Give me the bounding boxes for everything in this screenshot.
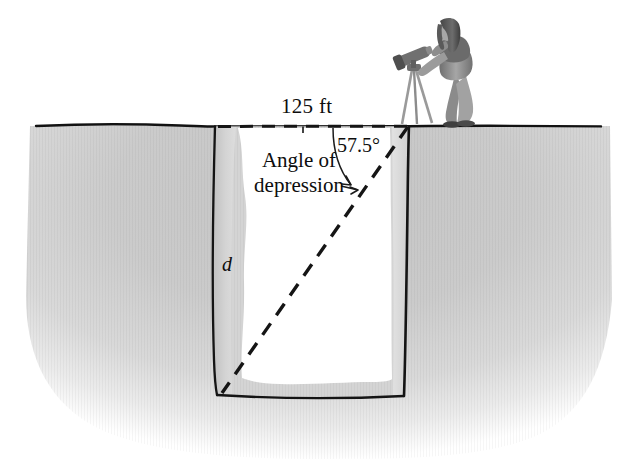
depth-variable-label: d: [222, 253, 232, 276]
tripod-leg-right: [416, 70, 432, 123]
figure-artwork: [0, 0, 623, 459]
tripod-leg-left: [402, 70, 412, 124]
caption-line-2: depression: [229, 173, 369, 198]
tripod-leg-center: [414, 70, 417, 124]
caption-line-1: Angle of: [229, 148, 369, 173]
angle-of-depression-caption: Angle of depression: [229, 148, 369, 198]
surveyor-front-leg: [456, 76, 473, 124]
distance-label: 125 ft: [281, 94, 332, 119]
surveyor-person-icon: [418, 18, 475, 128]
telescope-mount: [411, 60, 416, 68]
surveyor-shoe-front: [457, 120, 475, 126]
angle-of-depression-figure: 125 ft 57.5° Angle of depression d: [0, 0, 623, 459]
